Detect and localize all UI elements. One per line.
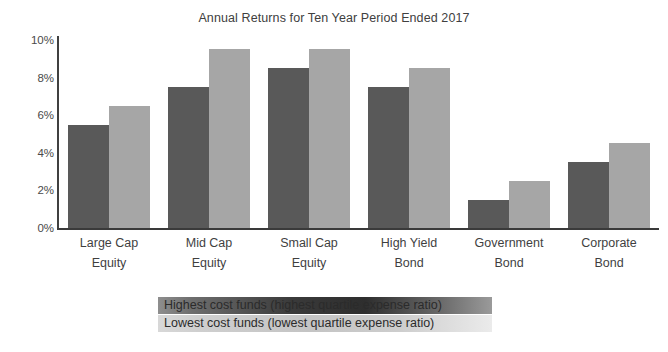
bar — [568, 162, 609, 228]
bar-chart: Annual Returns for Ten Year Period Ended… — [0, 0, 668, 352]
x-axis-category-label-line: Bond — [459, 253, 559, 273]
y-axis-tick-label: 10% — [18, 34, 54, 46]
bar — [168, 87, 209, 228]
x-axis-category-label-line: High Yield — [359, 233, 459, 253]
x-axis-category-label-line: Equity — [259, 253, 359, 273]
x-axis-category-label-line: Equity — [159, 253, 259, 273]
legend-label: Highest cost funds (highest quartile exp… — [164, 297, 442, 314]
x-axis-category-label-line: Government — [459, 233, 559, 253]
bar — [109, 106, 150, 228]
x-axis-category-label: Small CapEquity — [259, 233, 359, 273]
bar — [209, 49, 250, 228]
x-axis-line — [57, 228, 659, 230]
bar-group — [368, 40, 450, 228]
x-axis-category-label-line: Equity — [59, 253, 159, 273]
bar — [68, 125, 109, 228]
x-axis-category-label: GovernmentBond — [459, 233, 559, 273]
y-axis-tick-label: 4% — [18, 147, 54, 159]
x-axis-category-label: Mid CapEquity — [159, 233, 259, 273]
x-axis-category-label: Large CapEquity — [59, 233, 159, 273]
x-axis: Large CapEquityMid CapEquitySmall CapEqu… — [59, 233, 659, 277]
bar-group — [268, 40, 350, 228]
x-axis-category-label-line: Large Cap — [59, 233, 159, 253]
x-axis-category-label-line: Bond — [559, 253, 659, 273]
bar — [368, 87, 409, 228]
legend-label: Lowest cost funds (lowest quartile expen… — [164, 315, 434, 332]
y-axis-tick-label: 8% — [18, 72, 54, 84]
bar-group — [168, 40, 250, 228]
x-axis-category-label: High YieldBond — [359, 233, 459, 273]
x-axis-category-label-line: Small Cap — [259, 233, 359, 253]
x-axis-category-label-line: Corporate — [559, 233, 659, 253]
bar — [309, 49, 350, 228]
x-axis-category-label-line: Mid Cap — [159, 233, 259, 253]
y-axis-tick-label: 2% — [18, 184, 54, 196]
bar — [609, 143, 650, 228]
bar-group — [468, 40, 550, 228]
chart-title: Annual Returns for Ten Year Period Ended… — [0, 11, 668, 25]
y-axis: 10%8%6%4%2%0% — [18, 33, 54, 233]
bar — [468, 200, 509, 228]
y-axis-tick-label: 0% — [18, 222, 54, 234]
bar — [509, 181, 550, 228]
bar — [268, 68, 309, 228]
chart-legend: Highest cost funds (highest quartile exp… — [158, 297, 492, 333]
legend-row: Highest cost funds (highest quartile exp… — [158, 297, 492, 314]
legend-row: Lowest cost funds (lowest quartile expen… — [158, 315, 492, 332]
x-axis-category-label-line: Bond — [359, 253, 459, 273]
bar-group — [68, 40, 150, 228]
x-axis-category-label: CorporateBond — [559, 233, 659, 273]
bar-group — [568, 40, 650, 228]
y-axis-tick-label: 6% — [18, 109, 54, 121]
plot-area — [59, 40, 659, 228]
bar — [409, 68, 450, 228]
